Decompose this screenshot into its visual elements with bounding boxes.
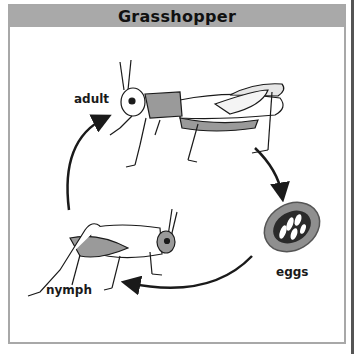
arrow-nymph-to-adult — [68, 118, 106, 210]
arrow-adult-to-eggs — [255, 148, 282, 195]
egg-pod-icon — [255, 193, 328, 262]
arrow-eggs-to-nymph — [128, 256, 252, 288]
stage-label-nymph: nymph — [46, 283, 92, 297]
stage-label-adult: adult — [74, 92, 109, 106]
stage-label-eggs: eggs — [276, 265, 308, 279]
life-cycle-illustration — [0, 0, 356, 354]
